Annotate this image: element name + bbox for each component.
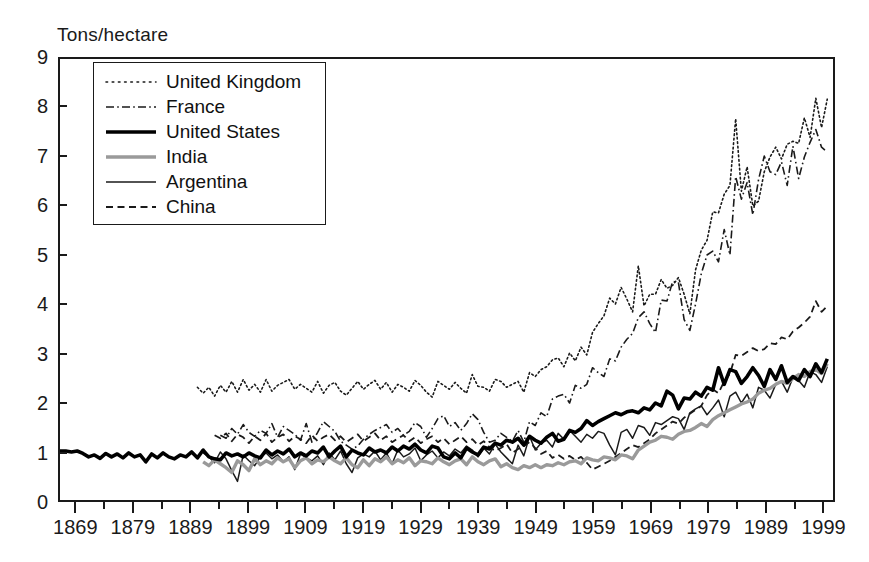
- x-axis-tick-label: 1949: [513, 516, 558, 539]
- x-axis-tick-mark: [765, 502, 767, 513]
- x-axis-tick-mark-minor: [448, 502, 450, 509]
- y-axis-tick-label: 6: [14, 194, 48, 217]
- x-axis-tick-mark: [132, 502, 134, 513]
- x-axis-tick-mark: [304, 502, 306, 513]
- y-axis-tick-mark: [58, 155, 67, 157]
- y-axis-tick-mark: [58, 452, 67, 454]
- legend-item-india[interactable]: India: [94, 144, 325, 169]
- y-axis-tick-mark: [58, 204, 67, 206]
- legend-swatch-solid-icon: [105, 176, 157, 188]
- x-axis-tick-mark: [707, 502, 709, 513]
- y-axis-tick-mark: [58, 254, 67, 256]
- x-axis-tick-mark: [189, 502, 191, 513]
- x-axis-tick-mark: [477, 502, 479, 513]
- chart-figure: Tons/hectare United KingdomFranceUnited …: [0, 0, 869, 562]
- x-axis-tick-mark-minor: [333, 502, 335, 509]
- x-axis-tick-label: 1979: [686, 516, 731, 539]
- y-axis-tick-mark: [58, 402, 67, 404]
- legend-swatch-solid-icon: [105, 126, 157, 138]
- x-axis-tick-mark: [74, 502, 76, 513]
- x-axis-tick-mark: [822, 502, 824, 513]
- legend-item-united-states[interactable]: United States: [94, 119, 325, 144]
- y-axis-tick-label: 3: [14, 342, 48, 365]
- x-axis-tick-label: 1989: [744, 516, 789, 539]
- legend-box: United KingdomFranceUnited StatesIndiaAr…: [93, 62, 326, 225]
- x-axis-tick-mark-minor: [563, 502, 565, 509]
- legend-swatch-dashdot-icon: [105, 101, 157, 113]
- x-axis-tick-mark-minor: [794, 502, 796, 509]
- legend-item-label: France: [166, 97, 225, 116]
- x-axis-tick-label: 1889: [168, 516, 213, 539]
- x-axis-tick-mark-minor: [276, 502, 278, 509]
- legend-item-label: China: [166, 197, 216, 216]
- legend-item-argentina[interactable]: Argentina: [94, 169, 325, 194]
- x-axis-tick-mark: [362, 502, 364, 513]
- y-axis-tick-label: 5: [14, 243, 48, 266]
- legend-item-china[interactable]: China: [94, 194, 325, 219]
- x-axis-tick-mark-minor: [506, 502, 508, 509]
- y-axis-tick-label: 8: [14, 95, 48, 118]
- y-axis-tick-label: 7: [14, 144, 48, 167]
- x-axis-tick-mark-minor: [391, 502, 393, 509]
- legend-swatch-dashed-icon: [105, 201, 157, 213]
- y-axis-tick-label: 9: [14, 46, 48, 69]
- x-axis-tick-mark-minor: [161, 502, 163, 509]
- x-axis-tick-label: 1939: [456, 516, 501, 539]
- x-axis-tick-mark: [650, 502, 652, 513]
- y-axis-tick-mark: [58, 353, 67, 355]
- x-axis-tick-mark-minor: [736, 502, 738, 509]
- x-axis-tick-mark-minor: [218, 502, 220, 509]
- x-axis-tick-label: 1879: [111, 516, 156, 539]
- x-axis-tick-label: 1999: [801, 516, 846, 539]
- y-axis-tick-mark: [58, 303, 67, 305]
- y-axis-tick-label: 1: [14, 441, 48, 464]
- x-axis-tick-mark: [592, 502, 594, 513]
- x-axis-tick-mark-minor: [621, 502, 623, 509]
- x-axis-tick-mark-minor: [679, 502, 681, 509]
- x-axis-tick-label: 1929: [398, 516, 443, 539]
- legend-swatch-solid-icon: [105, 151, 157, 163]
- x-axis-tick-label: 1909: [283, 516, 328, 539]
- x-axis-tick-label: 1869: [53, 516, 98, 539]
- x-axis-tick-label: 1959: [571, 516, 616, 539]
- y-axis-tick-label: 0: [14, 491, 48, 514]
- series-line-united-states: [60, 359, 827, 462]
- x-axis-tick-mark: [420, 502, 422, 513]
- legend-item-label: United Kingdom: [166, 72, 301, 91]
- legend-item-label: Argentina: [166, 172, 247, 191]
- y-axis-tick-label: 4: [14, 293, 48, 316]
- x-axis-tick-mark: [247, 502, 249, 513]
- y-axis-tick-label: 2: [14, 392, 48, 415]
- legend-item-france[interactable]: France: [94, 94, 325, 119]
- x-axis-tick-mark: [535, 502, 537, 513]
- legend-swatch-dotted-icon: [105, 76, 157, 88]
- y-axis-tick-mark: [58, 105, 67, 107]
- legend-item-united-kingdom[interactable]: United Kingdom: [94, 69, 325, 94]
- y-axis-label: Tons/hectare: [57, 24, 168, 46]
- x-axis-tick-label: 1919: [341, 516, 386, 539]
- x-axis-tick-label: 1969: [629, 516, 674, 539]
- x-axis-tick-mark-minor: [103, 502, 105, 509]
- legend-item-label: United States: [166, 122, 280, 141]
- x-axis-tick-label: 1899: [226, 516, 271, 539]
- legend-item-label: India: [166, 147, 207, 166]
